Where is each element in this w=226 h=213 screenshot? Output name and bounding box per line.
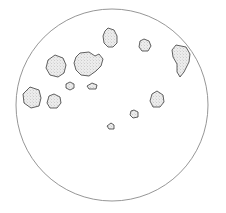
- particle-upper-left-oval: [46, 55, 66, 77]
- particle-lower-center-tiny: [130, 110, 138, 118]
- particle-right-teardrop: [172, 45, 190, 77]
- particle-mid-center-tiny: [87, 83, 97, 89]
- particle-layer: [23, 28, 190, 129]
- figure-root: [0, 0, 226, 213]
- particle-mid-left-tiny: [66, 82, 74, 90]
- particle-left-pentagon: [23, 87, 41, 108]
- particle-right-mid: [150, 91, 164, 107]
- field-of-view-diagram: [0, 0, 226, 213]
- particle-lower-left-tiny: [107, 123, 114, 129]
- particle-top-center: [103, 28, 117, 47]
- particle-center-large-lobed: [74, 52, 103, 76]
- particle-upper-right-small: [139, 39, 151, 51]
- particle-left-small-round: [47, 94, 61, 108]
